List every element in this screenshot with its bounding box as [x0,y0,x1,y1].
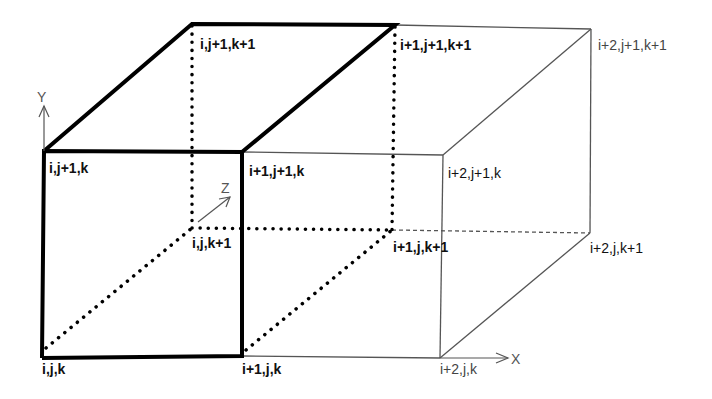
edge-bottom-right-depth [440,233,590,358]
edge-top-front [242,152,443,155]
x-axis-label: X [511,351,521,367]
label-i1j1k1: i+1,j+1,k+1 [400,37,471,53]
z-axis-line [198,197,230,222]
edge-right-back-vertical [590,29,591,233]
label-i2jk: i+2,j,k [440,361,478,377]
label-i1j1k: i+1,j+1,k [249,163,304,179]
diagram-canvas: Y X Z i,j,k i+1,j,k i+2,j,k i,j+1,k i+1,… [0,0,712,399]
grid-cell-diagram: Y X Z i,j,k i+1,j,k i+2,j,k i,j+1,k i+1,… [0,0,712,399]
edge-left-bottom-depth [46,228,192,348]
edge-right-front-vertical [440,155,443,358]
label-i2j1k: i+2,j+1,k [448,165,502,181]
label-i2jk1: i+2,j,k+1 [590,240,643,256]
label-ij1k1: i,j+1,k+1 [200,36,255,52]
label-i1jk1: i+1,j,k+1 [393,239,448,255]
y-axis-label: Y [37,89,47,105]
edge-back-mid-vertical [392,27,395,230]
second-cell-edges [242,25,591,358]
vertex-labels: i,j,k i+1,j,k i+2,j,k i,j+1,k i+1,j+1,k … [42,36,667,377]
label-ijk: i,j,k [42,361,66,377]
edge-top-back [395,25,591,29]
edge-back-bottom [192,228,392,230]
axes [39,106,508,363]
label-i2j1k1: i+2,j+1,k+1 [598,37,667,53]
label-ijk1: i,j,k+1 [192,235,232,251]
edge-bottom-back-hidden [392,230,590,233]
edge-mid-bottom-depth [246,230,392,350]
edge-bottom-front [242,356,440,358]
label-ij1k: i,j+1,k [49,160,89,176]
z-axis-label: Z [221,180,230,196]
label-i1jk: i+1,j,k [242,361,282,377]
